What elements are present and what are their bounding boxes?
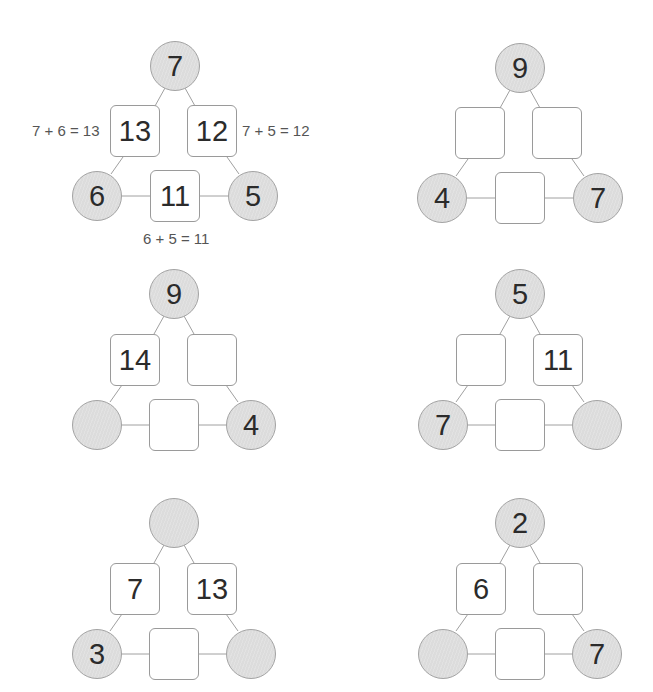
right-sum-box[interactable]	[532, 107, 582, 159]
bottom-right-number: 7	[589, 640, 605, 669]
bottom-right-number: 5	[245, 182, 261, 211]
left-sum-box[interactable]: 6	[456, 563, 506, 615]
bottom-right-circle	[226, 629, 276, 679]
bottom-left-circle: 4	[417, 173, 467, 223]
left-sum-value: 13	[119, 117, 151, 146]
bottom-sum-value: 11	[160, 182, 190, 211]
bottom-right-circle: 7	[573, 173, 623, 223]
top-circle	[149, 498, 199, 548]
top-circle: 7	[150, 41, 200, 91]
left-sum-value: 7	[127, 575, 143, 604]
top-circle: 9	[149, 269, 199, 319]
top-circle: 5	[495, 269, 545, 319]
bottom-left-circle: 7	[418, 400, 468, 450]
top-number: 9	[166, 280, 182, 309]
top-number: 2	[512, 509, 528, 538]
bottom-sum-box[interactable]	[149, 399, 199, 451]
bottom-right-number: 7	[590, 184, 606, 213]
bottom-right-circle: 5	[228, 171, 278, 221]
bottom-right-circle: 4	[226, 400, 276, 450]
left-sum-box[interactable]	[456, 334, 506, 386]
top-number: 9	[512, 54, 528, 83]
top-number: 7	[167, 52, 183, 81]
bottom-left-circle: 6	[72, 171, 122, 221]
bottom-left-number: 7	[435, 411, 451, 440]
equation-right: 7 + 5 = 12	[242, 123, 310, 138]
right-sum-box[interactable]: 12	[187, 105, 237, 157]
bottom-right-circle: 7	[572, 629, 622, 679]
top-number: 5	[512, 280, 528, 309]
top-circle: 2	[495, 498, 545, 548]
bottom-right-number: 4	[243, 411, 259, 440]
left-sum-box[interactable]	[455, 107, 505, 159]
right-sum-box[interactable]	[533, 563, 583, 615]
left-sum-value: 14	[119, 346, 151, 375]
right-sum-box[interactable]	[187, 334, 237, 386]
bottom-left-number: 3	[89, 640, 105, 669]
left-sum-box[interactable]: 14	[110, 334, 160, 386]
top-circle: 9	[495, 43, 545, 93]
bottom-sum-box[interactable]: 11	[150, 170, 200, 222]
right-sum-value: 12	[196, 117, 228, 146]
bottom-sum-box[interactable]	[495, 628, 545, 680]
bottom-left-circle	[72, 400, 122, 450]
bottom-right-circle	[572, 400, 622, 450]
right-sum-box[interactable]: 13	[187, 563, 237, 615]
equation-left: 7 + 6 = 13	[32, 123, 100, 138]
left-sum-value: 6	[473, 575, 489, 604]
bottom-left-number: 6	[89, 182, 105, 211]
equation-bottom: 6 + 5 = 11	[143, 231, 209, 246]
bottom-left-circle	[418, 629, 468, 679]
bottom-sum-box[interactable]	[495, 399, 545, 451]
bottom-sum-box[interactable]	[495, 172, 545, 224]
left-sum-box[interactable]: 7	[110, 563, 160, 615]
bottom-left-number: 4	[434, 184, 450, 213]
bottom-sum-box[interactable]	[149, 628, 199, 680]
bottom-left-circle: 3	[72, 629, 122, 679]
left-sum-box[interactable]: 13	[110, 105, 160, 157]
right-sum-value: 13	[196, 575, 228, 604]
right-sum-value: 11	[543, 346, 573, 375]
right-sum-box[interactable]: 11	[533, 334, 583, 386]
